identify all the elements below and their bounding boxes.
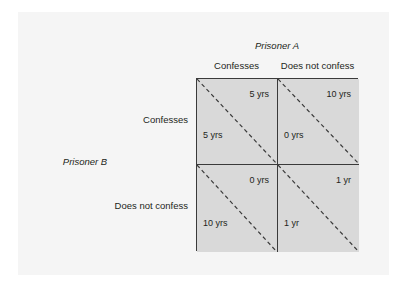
prisoner-b-payoff: 5 yrs — [203, 130, 223, 140]
payoff-matrix: 5 yrs 5 yrs 10 yrs 0 yrs 0 yrs 10 yrs 1 … — [196, 78, 358, 251]
column-header-does-not-confess: Does not confess — [277, 60, 358, 71]
matrix-cell-confess-notconfess: 10 yrs 0 yrs — [278, 79, 359, 165]
matrix-cell-confess-confess: 5 yrs 5 yrs — [197, 79, 278, 165]
prisoner-a-payoff: 1 yr — [336, 175, 351, 185]
column-header-confesses: Confesses — [196, 60, 277, 71]
matrix-cell-notconfess-notconfess: 1 yr 1 yr — [278, 165, 359, 252]
row-header-confesses: Confesses — [60, 114, 188, 125]
prisoner-b-payoff: 1 yr — [284, 218, 299, 228]
payoff-matrix-figure: Prisoner A Prisoner B Confesses Does not… — [0, 0, 403, 288]
prisoner-b-payoff: 0 yrs — [284, 130, 304, 140]
prisoner-a-payoff: 10 yrs — [326, 89, 351, 99]
prisoner-a-payoff: 0 yrs — [249, 175, 269, 185]
column-axis-title: Prisoner A — [196, 40, 358, 51]
row-axis-title: Prisoner B — [30, 156, 140, 167]
row-header-does-not-confess: Does not confess — [60, 200, 188, 211]
prisoner-a-payoff: 5 yrs — [249, 89, 269, 99]
matrix-cell-notconfess-confess: 0 yrs 10 yrs — [197, 165, 278, 252]
prisoner-b-payoff: 10 yrs — [203, 218, 228, 228]
